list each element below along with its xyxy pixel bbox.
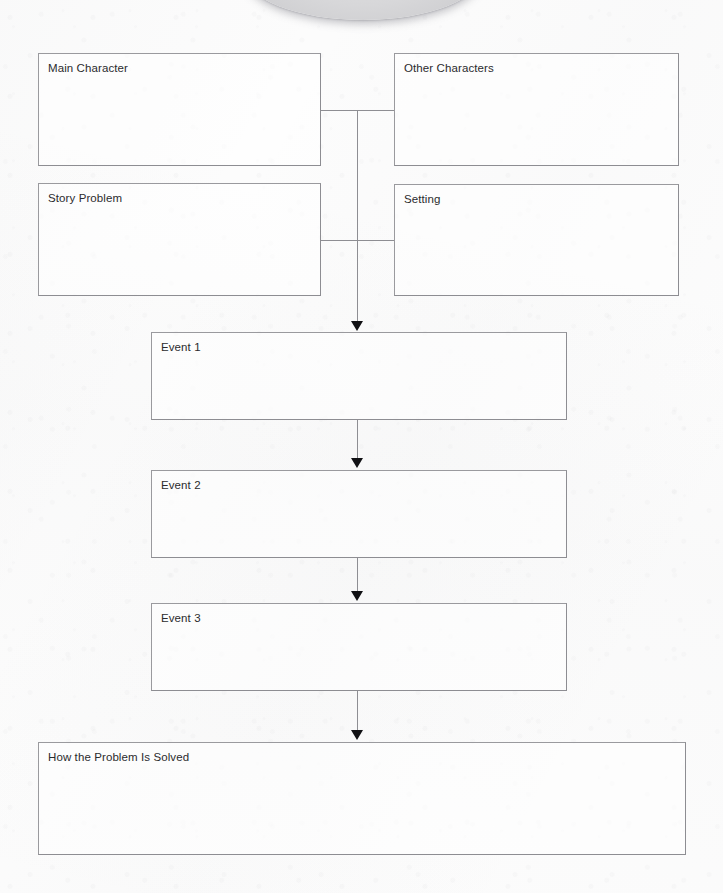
connector-spine-vertical: [357, 110, 358, 321]
arrow-down-icon-to-event-2: [351, 458, 363, 468]
connector-event-3-to-solution: [357, 691, 358, 730]
field-box-other-characters[interactable]: Other Characters: [394, 53, 679, 166]
field-box-event-2[interactable]: Event 2: [151, 470, 567, 558]
arrow-down-icon-to-event-3: [351, 591, 363, 601]
field-label-event-3: Event 3: [161, 611, 201, 625]
arrow-down-icon-to-event-1: [351, 321, 363, 331]
top-oval-decoration: [0, 0, 723, 46]
arrow-down-icon-to-solution: [351, 730, 363, 740]
field-label-main-character: Main Character: [48, 61, 128, 75]
story-map-worksheet: Main Character Other Characters Story Pr…: [0, 0, 723, 893]
field-label-event-1: Event 1: [161, 340, 201, 354]
connector-event-1-to-event-2: [357, 420, 358, 458]
field-box-event-1[interactable]: Event 1: [151, 332, 567, 420]
field-label-story-problem: Story Problem: [48, 191, 122, 205]
field-box-setting[interactable]: Setting: [394, 184, 679, 296]
field-label-event-2: Event 2: [161, 478, 201, 492]
gray-oval-shape: [244, 0, 482, 20]
field-box-event-3[interactable]: Event 3: [151, 603, 567, 691]
field-label-setting: Setting: [404, 192, 441, 206]
field-label-other-characters: Other Characters: [404, 61, 494, 75]
field-box-story-problem[interactable]: Story Problem: [38, 183, 321, 296]
field-label-how-the-problem-is-solved: How the Problem Is Solved: [48, 750, 189, 764]
field-box-how-the-problem-is-solved[interactable]: How the Problem Is Solved: [38, 742, 686, 855]
connector-event-2-to-event-3: [357, 558, 358, 591]
field-box-main-character[interactable]: Main Character: [38, 53, 321, 166]
